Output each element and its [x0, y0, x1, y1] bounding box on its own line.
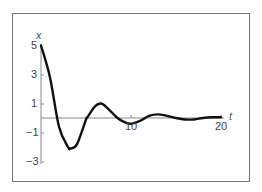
x-tick-label-10: 10: [125, 121, 137, 132]
y-tick-label-1: 1: [31, 98, 37, 109]
y-tick-label-neg3: −3: [26, 156, 39, 167]
data-curve: [41, 46, 221, 150]
x-axis-label: t: [229, 111, 232, 122]
x-tick-label-20: 20: [215, 121, 227, 132]
y-tick-label-neg1: −1: [26, 127, 39, 138]
y-tick-label-3: 3: [31, 69, 37, 80]
y-tick-label-5: 5: [31, 40, 37, 51]
